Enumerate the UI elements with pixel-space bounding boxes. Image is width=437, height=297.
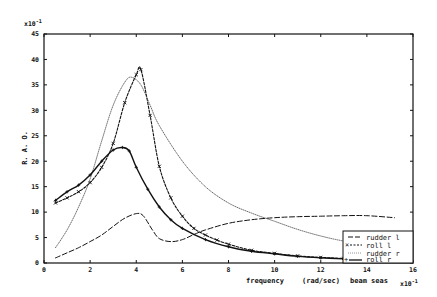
legend: rudder l × roll l rudder r + roll r — [343, 231, 413, 264]
x-tick-label: 16 — [409, 266, 417, 274]
x-tick-label: 6 — [180, 266, 184, 274]
x-axis-title-condition: beam seas — [350, 277, 388, 285]
y-tick-label: 0 — [35, 259, 39, 267]
x-tick-label: 8 — [227, 266, 231, 274]
plus-marker-icon: + — [344, 256, 348, 264]
y-tick-label: 35 — [31, 81, 39, 89]
x-multiplier: x10-1 — [400, 278, 418, 288]
x-tick-label: 4 — [134, 266, 138, 274]
y-tick-label: 15 — [31, 183, 39, 191]
series-roll-r — [54, 146, 345, 261]
x-tick-label: 10 — [271, 266, 279, 274]
y-tick-label: 20 — [31, 158, 39, 166]
x-tick-label: 14 — [363, 266, 371, 274]
x-axis-title-frequency: frequency — [246, 277, 285, 285]
rao-chart: 0246810121416051015202530354045 x10-1 R.… — [0, 0, 437, 297]
x-tick-label: 2 — [88, 266, 92, 274]
y-tick-label: 25 — [31, 132, 39, 140]
x-tick-label: 0 — [42, 266, 46, 274]
y-axis-title: R. A. O. — [21, 131, 29, 165]
y-multiplier: x10-1 — [24, 18, 42, 28]
y-tick-label: 40 — [31, 56, 39, 64]
series-rudder-r — [56, 77, 367, 248]
series-roll-l — [54, 67, 345, 260]
y-tick-label: 5 — [35, 234, 39, 242]
x-marker-icon: × — [345, 241, 349, 249]
x-axis-title-units: (rad/sec) — [302, 277, 340, 285]
svg-text:roll l: roll l — [366, 242, 391, 250]
y-tick-label: 45 — [31, 30, 39, 38]
x-tick-label: 12 — [317, 266, 325, 274]
y-tick-label: 30 — [31, 107, 39, 115]
svg-text:rudder l: rudder l — [366, 234, 400, 242]
y-tick-label: 10 — [31, 208, 39, 216]
svg-text:roll r: roll r — [366, 256, 391, 264]
